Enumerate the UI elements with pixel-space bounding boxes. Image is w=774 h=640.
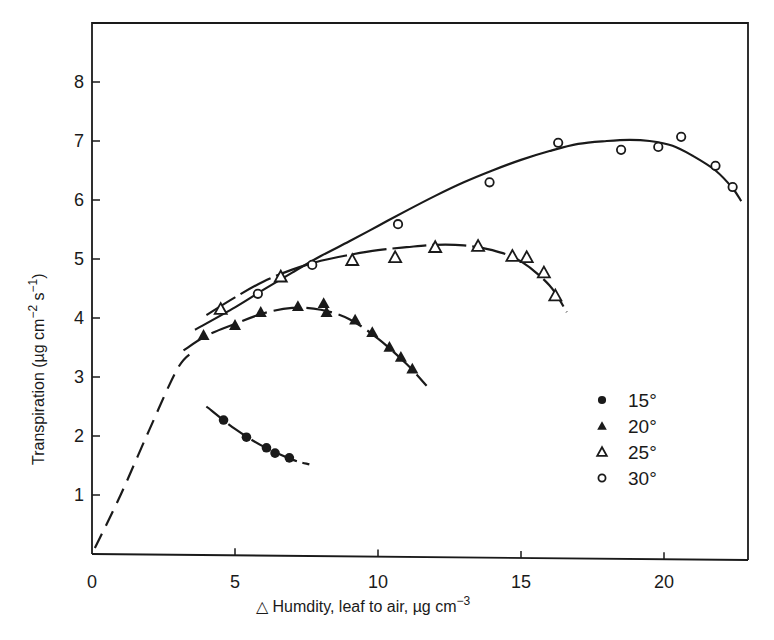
x-axis-title-exponent: −3 [457, 594, 471, 608]
y-tick-label: 6 [74, 190, 84, 210]
x-tick-label: 15 [511, 572, 531, 592]
open-circle-marker [308, 261, 316, 269]
filled-triangle-marker [292, 300, 304, 311]
x-tick-label: 10 [368, 572, 388, 592]
y-tick-label: 5 [74, 249, 84, 269]
open-triangle-marker [597, 447, 607, 456]
transpiration-chart: 05101520 12345678 △ Humdity, leaf to air… [0, 0, 774, 640]
open-circle-marker [598, 474, 605, 481]
y-tick-label: 7 [74, 131, 84, 151]
legend-label: 15° [628, 390, 657, 411]
open-triangle-marker [538, 267, 550, 278]
open-circle-marker [485, 178, 493, 186]
fit-curve [95, 350, 195, 548]
filled-circle-marker [242, 432, 252, 442]
y-axis-title-text: Transpiration (µg cm [30, 319, 47, 465]
open-triangle-marker [521, 251, 533, 262]
legend-label: 20° [628, 416, 657, 437]
open-circle-marker [711, 162, 719, 170]
x-tick-label: 5 [230, 572, 240, 592]
y-tick-label: 4 [74, 308, 84, 328]
x-tick-label: 20 [654, 572, 674, 592]
filled-triangle-marker [318, 297, 330, 308]
open-triangle-marker [549, 290, 561, 301]
filled-circle-marker [598, 396, 606, 404]
open-triangle-marker [472, 240, 484, 251]
open-circle-marker [728, 183, 736, 191]
y-tick-label: 3 [74, 367, 84, 387]
open-circle-marker [254, 290, 262, 298]
y-axis-ticks: 12345678 [74, 72, 100, 505]
open-circle-marker [654, 143, 662, 151]
x-tick-label: 0 [87, 572, 97, 592]
data-markers [198, 133, 737, 463]
open-triangle-marker [346, 254, 358, 265]
y-tick-label: 2 [74, 426, 84, 446]
open-circle-marker [554, 139, 562, 147]
legend: 15°20°25°30° [597, 390, 657, 489]
filled-circle-marker [219, 415, 229, 425]
filled-circle-marker [285, 453, 295, 463]
x-axis-title: △ Humdity, leaf to air, µg cm−3 [256, 594, 471, 615]
filled-circle-marker [262, 443, 272, 453]
filled-circle-marker [270, 448, 280, 458]
open-triangle-marker [389, 251, 401, 262]
filled-triangle-marker [395, 351, 407, 362]
fit-curve [195, 140, 741, 330]
y-axis-title-exponent-1: −2 [26, 305, 40, 319]
open-triangle-marker [429, 241, 441, 252]
y-tick-label: 1 [74, 485, 84, 505]
y-tick-label: 8 [74, 72, 84, 92]
open-circle-marker [617, 146, 625, 154]
open-circle-marker [677, 133, 685, 141]
filled-triangle-marker [255, 306, 267, 317]
filled-triangle-marker [198, 329, 210, 340]
y-axis-title: Transpiration (µg cm−2 s−1) [26, 273, 47, 465]
y-axis-title-mid: s [30, 292, 47, 304]
y-axis-title-end: ) [30, 273, 47, 278]
filled-triangle-marker [383, 341, 395, 352]
y-axis-title-exponent-2: −1 [26, 278, 40, 292]
x-axis-title-text: △ Humdity, leaf to air, µg cm [256, 598, 457, 615]
open-triangle-marker [506, 250, 518, 261]
fit-curve [206, 407, 309, 465]
legend-label: 30° [628, 468, 657, 489]
legend-label: 25° [628, 442, 657, 463]
filled-triangle-marker [597, 421, 607, 430]
open-circle-marker [394, 220, 402, 228]
